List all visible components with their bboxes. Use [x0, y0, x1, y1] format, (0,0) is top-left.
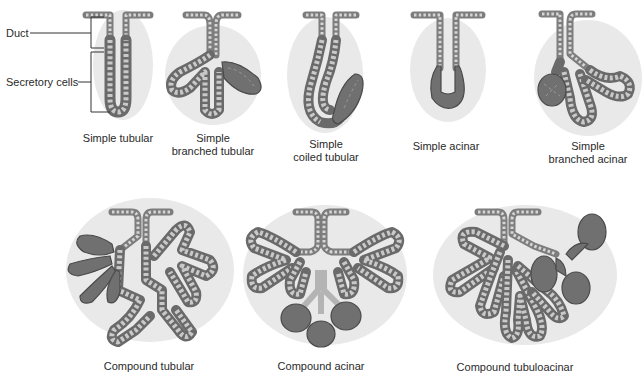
simple-acinar-illustration [410, 15, 486, 122]
duct-annotation: Duct [6, 27, 29, 40]
secretory-cells-annotation: Secretory cells [6, 76, 78, 89]
caption-compound-tubuloacinar: Compound tubuloacinar [440, 361, 590, 374]
simple-branched-tubular-illustration [165, 15, 261, 125]
compound-acinar-illustration [243, 205, 407, 347]
caption-simple-coiled-tubular: Simple coiled tubular [276, 138, 376, 164]
simple-coiled-tubular-illustration [287, 15, 363, 133]
caption-compound-tubular: Compound tubular [84, 360, 214, 373]
gland-diagram-artwork [0, 0, 644, 382]
caption-simple-acinar: Simple acinar [396, 140, 496, 153]
caption-simple-tubular: Simple tubular [68, 132, 168, 145]
compound-tubular-illustration [66, 198, 234, 342]
compound-tubuloacinar-illustration [433, 205, 617, 345]
caption-simple-branched-acinar: Simple branched acinar [538, 140, 638, 166]
caption-compound-acinar: Compound acinar [256, 360, 386, 373]
simple-branched-acinar-illustration [534, 14, 642, 136]
caption-simple-branched-tubular: Simple branched tubular [163, 132, 263, 158]
simple-tubular-illustration [86, 10, 153, 120]
